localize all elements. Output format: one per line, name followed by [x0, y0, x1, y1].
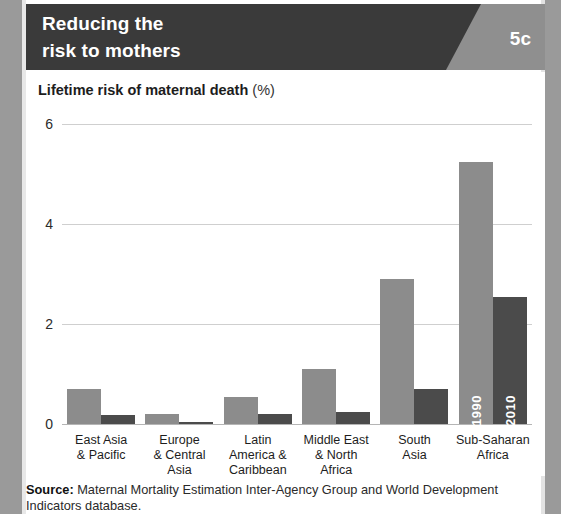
- bar-groups: East Asia& PacificEurope& CentralAsiaLat…: [62, 124, 532, 424]
- y-axis-tick-label: 2: [45, 316, 53, 332]
- x-axis-category-line: America &: [213, 448, 303, 463]
- bar-group: 19902010Sub-SaharanAfrica: [454, 124, 532, 424]
- page-edge-right: [545, 0, 561, 514]
- y-axis-tick-label: 0: [45, 416, 53, 432]
- x-axis-category-line: East Asia: [56, 433, 146, 448]
- bar-2010-5[interactable]: [414, 389, 448, 424]
- x-axis-category-label: East Asia& Pacific: [56, 433, 146, 463]
- bar-group: Europe& CentralAsia: [140, 124, 218, 424]
- x-axis-category-line: Middle East: [291, 433, 381, 448]
- bar-1990-1[interactable]: [67, 389, 101, 424]
- x-axis-category-line: Asia: [134, 463, 224, 478]
- figure-page: Reducing the risk to mothers 5c Lifetime…: [0, 0, 561, 514]
- chart-title-unit: (%): [252, 82, 275, 98]
- axis-baseline: [62, 424, 532, 425]
- figure-title-line-1: Reducing the: [42, 10, 402, 37]
- x-axis-category-line: Caribbean: [213, 463, 303, 478]
- x-axis-category-line: Asia: [369, 448, 459, 463]
- figure-number-badge: 5c: [510, 28, 531, 50]
- x-axis-category-line: Europe: [134, 433, 224, 448]
- x-axis-category-line: Sub-Saharan: [448, 433, 538, 448]
- bar-1990-3[interactable]: [224, 397, 258, 425]
- x-axis-category-label: Europe& CentralAsia: [134, 433, 224, 478]
- source-label: Source:: [26, 482, 74, 497]
- bar-group: SouthAsia: [375, 124, 453, 424]
- x-axis-category-label: Middle East& NorthAfrica: [291, 433, 381, 478]
- bar-2010-1[interactable]: [101, 415, 135, 424]
- figure-title: Reducing the risk to mothers: [42, 10, 402, 64]
- bar-series-label-1990: 1990: [468, 395, 483, 426]
- bar-1990-2[interactable]: [145, 414, 179, 424]
- x-axis-category-line: Africa: [291, 463, 381, 478]
- figure-title-line-2: risk to mothers: [42, 37, 402, 64]
- page-edge-left: [0, 0, 22, 514]
- chart-plot-area: 0246 East Asia& PacificEurope& CentralAs…: [62, 124, 532, 424]
- chart-title-main: Lifetime risk of maternal death: [38, 82, 248, 98]
- x-axis-category-label: LatinAmerica &Caribbean: [213, 433, 303, 478]
- x-axis-category-label: Sub-SaharanAfrica: [448, 433, 538, 463]
- bar-1990-4[interactable]: [302, 369, 336, 424]
- chart-card: Lifetime risk of maternal death (%) 0246…: [26, 72, 545, 476]
- x-axis-category-line: Africa: [448, 448, 538, 463]
- bar-group: East Asia& Pacific: [62, 124, 140, 424]
- x-axis-category-line: & Pacific: [56, 448, 146, 463]
- bar-2010-2[interactable]: [179, 422, 213, 425]
- x-axis-category-line: & Central: [134, 448, 224, 463]
- bar-group: LatinAmerica &Caribbean: [219, 124, 297, 424]
- bar-2010-4[interactable]: [336, 412, 370, 425]
- x-axis-category-line: South: [369, 433, 459, 448]
- y-axis-tick-label: 6: [45, 116, 53, 132]
- source-text: Maternal Mortality Estimation Inter-Agen…: [26, 482, 498, 513]
- bar-group: Middle East& NorthAfrica: [297, 124, 375, 424]
- x-axis-category-line: & North: [291, 448, 381, 463]
- figure-header: Reducing the risk to mothers 5c: [26, 4, 545, 70]
- x-axis-category-label: SouthAsia: [369, 433, 459, 463]
- bar-2010-6[interactable]: 2010: [493, 297, 527, 425]
- bar-1990-5[interactable]: [380, 279, 414, 424]
- bar-2010-3[interactable]: [258, 414, 292, 424]
- source-note: Source: Maternal Mortality Estimation In…: [26, 482, 536, 514]
- bar-1990-6[interactable]: 1990: [459, 162, 493, 425]
- chart-title: Lifetime risk of maternal death (%): [38, 82, 275, 98]
- x-axis-category-line: Latin: [213, 433, 303, 448]
- y-axis-tick-label: 4: [45, 216, 53, 232]
- bar-series-label-2010: 2010: [502, 395, 517, 426]
